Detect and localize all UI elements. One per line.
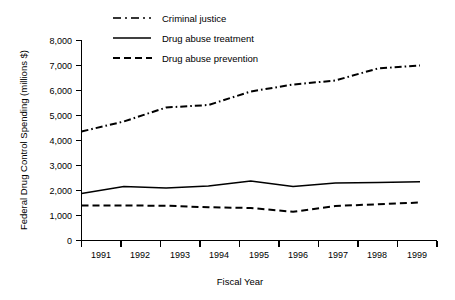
chart-figure: Criminal justice Drug abuse treatment Dr… xyxy=(0,0,455,300)
legend-label-criminal-justice: Criminal justice xyxy=(162,13,226,24)
x-tick-label: 1999 xyxy=(407,250,427,260)
x-tick-label: 1998 xyxy=(367,250,387,260)
legend-label-drug-abuse-treatment: Drug abuse treatment xyxy=(162,33,254,44)
legend-item-drug-abuse-prevention: Drug abuse prevention xyxy=(113,53,258,64)
chart-legend: Criminal justice Drug abuse treatment Dr… xyxy=(113,13,258,64)
y-tick-label: 5,000 xyxy=(49,111,72,121)
x-axis-tick-labels: 1991 1992 1993 1994 1995 1996 1997 1998 … xyxy=(91,250,427,260)
series-group xyxy=(82,66,421,212)
series-line-criminal-justice xyxy=(82,66,421,132)
y-tick-label: 7,000 xyxy=(49,61,72,71)
x-tick-label: 1997 xyxy=(328,250,348,260)
series-line-drug-abuse-prevention xyxy=(82,203,421,212)
x-tick-label: 1991 xyxy=(91,250,111,260)
legend-item-criminal-justice: Criminal justice xyxy=(113,13,226,24)
y-axis-title: Federal Drug Control Spending (millions … xyxy=(18,50,29,230)
x-axis-ticks xyxy=(82,241,438,248)
x-tick-label: 1994 xyxy=(209,250,229,260)
x-tick-label: 1996 xyxy=(288,250,308,260)
y-axis-ticks xyxy=(76,41,82,241)
x-tick-label: 1993 xyxy=(170,250,190,260)
y-tick-label: 1,000 xyxy=(49,211,72,221)
y-tick-label: 0 xyxy=(67,236,72,246)
y-tick-label: 4,000 xyxy=(49,136,72,146)
series-line-drug-abuse-treatment xyxy=(82,181,421,194)
legend-label-drug-abuse-prevention: Drug abuse prevention xyxy=(162,53,258,64)
y-tick-label: 6,000 xyxy=(49,86,72,96)
y-axis-tick-labels: 8,000 7,000 6,000 5,000 4,000 3,000 2,00… xyxy=(49,36,72,246)
y-tick-label: 2,000 xyxy=(49,186,72,196)
y-tick-label: 8,000 xyxy=(49,36,72,46)
x-tick-label: 1995 xyxy=(249,250,269,260)
x-axis-title: Fiscal Year xyxy=(217,276,263,287)
x-tick-label: 1992 xyxy=(130,250,150,260)
line-chart: Criminal justice Drug abuse treatment Dr… xyxy=(0,0,455,300)
y-tick-label: 3,000 xyxy=(49,161,72,171)
legend-item-drug-abuse-treatment: Drug abuse treatment xyxy=(113,33,254,44)
